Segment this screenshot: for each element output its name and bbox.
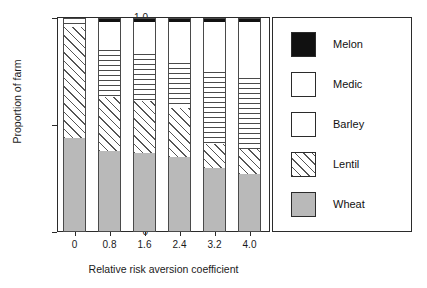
legend-item-melon[interactable]: Melon — [291, 30, 409, 58]
bar-0 — [63, 18, 86, 232]
legend-item-wheat[interactable]: Wheat — [291, 190, 409, 218]
x-tick-label-2-4: 2.4 — [160, 240, 200, 250]
x-tick-label-4-0: 4.0 — [230, 240, 270, 250]
legend-item-barley[interactable]: Barley — [291, 110, 409, 138]
bar-top-line — [203, 18, 226, 19]
legend-label-medic: Medic — [333, 78, 362, 90]
bar-top-line — [98, 18, 121, 19]
x-tick-mark — [110, 232, 111, 236]
bar-segment-wheat — [133, 153, 156, 232]
x-tick-label-0: 0 — [55, 240, 95, 250]
bar-top-line — [238, 18, 261, 19]
legend-label-barley: Barley — [333, 118, 364, 130]
x-tick-mark — [250, 232, 251, 236]
x-tick-mark — [75, 232, 76, 236]
bar-segment-wheat — [203, 168, 226, 232]
bar-top-line — [63, 18, 86, 19]
plot-area — [57, 18, 270, 232]
bar-segment-barley — [63, 18, 86, 27]
legend-swatch-wheat — [291, 192, 316, 217]
bar-segment-barley — [168, 63, 191, 108]
bar-segment-barley — [133, 54, 156, 101]
bar-segment-lentil — [168, 108, 191, 157]
x-axis-label: Relative risk aversion coefficient — [57, 264, 270, 275]
legend-label-wheat: Wheat — [333, 198, 365, 210]
x-tick-mark — [215, 232, 216, 236]
y-tick-mark — [52, 232, 57, 233]
bar-segment-medic — [133, 22, 156, 54]
legend-item-medic[interactable]: Medic — [291, 70, 409, 98]
bar-segment-lentil — [203, 144, 226, 168]
x-tick-label-0-8: 0.8 — [90, 240, 130, 250]
legend: MelonMedicBarleyLentilWheat — [272, 17, 412, 232]
y-axis-label: Proportion of farm — [12, 42, 23, 162]
bar-segment-barley — [203, 72, 226, 145]
bar-segment-barley — [98, 50, 121, 97]
bar-segment-lentil — [63, 27, 86, 138]
bar-4-0 — [238, 18, 261, 232]
x-tick-label-1-6: 1.6 — [125, 240, 165, 250]
legend-swatch-medic — [291, 72, 316, 97]
bar-segment-medic — [203, 22, 226, 71]
legend-swatch-barley — [291, 112, 316, 137]
x-tick-mark — [180, 232, 181, 236]
bar-segment-lentil — [98, 97, 121, 151]
bar-segment-lentil — [238, 149, 261, 175]
bar-top-line — [133, 18, 156, 19]
legend-swatch-lentil — [291, 152, 316, 177]
bar-0-8 — [98, 18, 121, 232]
bar-segment-medic — [238, 22, 261, 78]
bar-segment-wheat — [238, 174, 261, 232]
bar-2-4 — [168, 18, 191, 232]
bar-segment-wheat — [63, 138, 86, 232]
bar-segment-medic — [98, 22, 121, 50]
chart-figure: Proportion of farm 00.51.0 00.81.62.43.2… — [0, 0, 427, 288]
bar-segment-wheat — [98, 151, 121, 232]
x-tick-label-3-2: 3.2 — [195, 240, 235, 250]
legend-label-melon: Melon — [333, 38, 363, 50]
legend-label-lentil: Lentil — [333, 158, 359, 170]
bar-segment-medic — [168, 22, 191, 63]
bar-segment-wheat — [168, 157, 191, 232]
legend-item-lentil[interactable]: Lentil — [291, 150, 409, 178]
bar-segment-lentil — [133, 101, 156, 152]
bar-top-line — [168, 18, 191, 19]
legend-swatch-melon — [291, 32, 316, 57]
x-tick-mark — [145, 232, 146, 236]
bar-3-2 — [203, 18, 226, 232]
bar-segment-barley — [238, 78, 261, 149]
bar-1-6 — [133, 18, 156, 232]
